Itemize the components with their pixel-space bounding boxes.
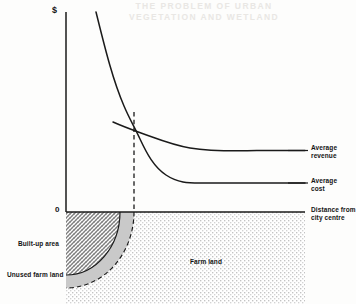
y-axis-title: $ <box>52 5 57 15</box>
average-cost-curve <box>96 12 305 183</box>
average-cost-label: Average cost <box>311 177 337 193</box>
built-up-area-label: Built-up area <box>18 240 59 248</box>
origin-label: 0 <box>55 205 59 214</box>
average-revenue-label: Average revenue <box>311 144 337 160</box>
average-revenue-curve <box>113 122 305 151</box>
farm-land-label: Farm land <box>190 258 222 266</box>
unused-farm-land-label: Unused farm land <box>7 271 64 279</box>
page-showthrough-text: THE PROBLEM OF URBAN VEGETATION AND WETL… <box>84 1 324 23</box>
diagram-canvas: THE PROBLEM OF URBAN VEGETATION AND WETL… <box>0 0 356 304</box>
x-axis-label: Distance from city centre <box>311 206 356 222</box>
land-use-regions <box>66 212 305 304</box>
diagram-svg <box>0 0 356 304</box>
